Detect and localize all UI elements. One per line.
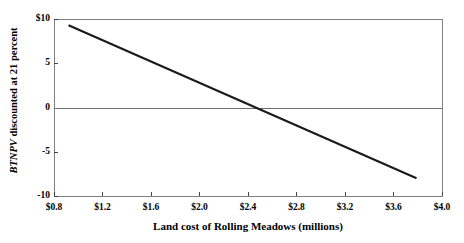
chart-figure: BTNPV discounted at 21 percent $1050-5-1… <box>0 0 464 243</box>
data-line-series <box>69 25 417 178</box>
plot-area <box>0 0 464 243</box>
x-axis-title: Land cost of Rolling Meadows (millions) <box>54 220 442 232</box>
